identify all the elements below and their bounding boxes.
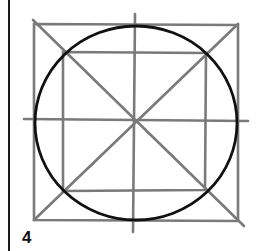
step-number-label: 4: [22, 229, 31, 246]
diagonal-line-down: [33, 20, 244, 226]
circle-construction-diagram: [0, 0, 256, 251]
